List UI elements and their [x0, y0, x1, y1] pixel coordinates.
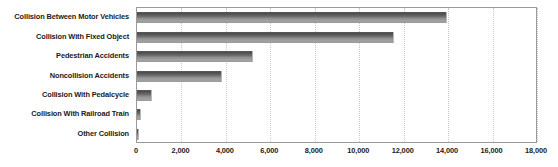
category-label: Collision With Railroad Train — [0, 109, 129, 118]
bar — [137, 51, 253, 62]
category-axis-labels: Collision Between Motor VehiclesCollisio… — [0, 7, 133, 143]
value-tick-label: 14,000 — [436, 146, 458, 155]
value-axis-labels: 02,0004,0006,0008,00010,00012,00014,0001… — [0, 146, 558, 160]
value-tick-label: 16,000 — [481, 146, 503, 155]
gridline — [270, 8, 271, 142]
bar — [137, 129, 139, 140]
category-label: Other Collision — [0, 129, 129, 138]
bar — [137, 32, 394, 43]
value-tick-label: 6,000 — [260, 146, 278, 155]
bar-fill — [137, 12, 447, 23]
category-label: Pedestrian Accidents — [0, 51, 129, 60]
value-tick-label: 12,000 — [392, 146, 414, 155]
gridline — [493, 8, 494, 142]
bar — [137, 109, 141, 120]
gridline — [537, 8, 538, 142]
bar-fill — [137, 71, 222, 82]
bar-fill — [137, 109, 141, 120]
category-label: Collision Between Motor Vehicles — [0, 12, 129, 21]
category-label: Collision With Pedalcycle — [0, 90, 129, 99]
value-tick-label: 8,000 — [305, 146, 323, 155]
bar-fill — [137, 90, 152, 101]
gridline — [448, 8, 449, 142]
value-tick-label: 0 — [134, 146, 138, 155]
category-label: Noncollision Accidents — [0, 71, 129, 80]
bar-chart: Collision Between Motor VehiclesCollisio… — [0, 0, 558, 167]
bar-fill — [137, 129, 139, 140]
bar — [137, 90, 152, 101]
category-label: Collision With Fixed Object — [0, 32, 129, 41]
plot-area — [136, 7, 537, 143]
bar-fill — [137, 51, 253, 62]
value-tick-label: 18,000 — [525, 146, 547, 155]
gridline — [226, 8, 227, 142]
gridline — [359, 8, 360, 142]
bar — [137, 71, 222, 82]
value-tick-label: 10,000 — [347, 146, 369, 155]
gridline — [404, 8, 405, 142]
value-tick-label: 2,000 — [171, 146, 189, 155]
gridline — [315, 8, 316, 142]
value-tick-label: 4,000 — [216, 146, 234, 155]
bar — [137, 12, 447, 23]
bar-fill — [137, 32, 394, 43]
